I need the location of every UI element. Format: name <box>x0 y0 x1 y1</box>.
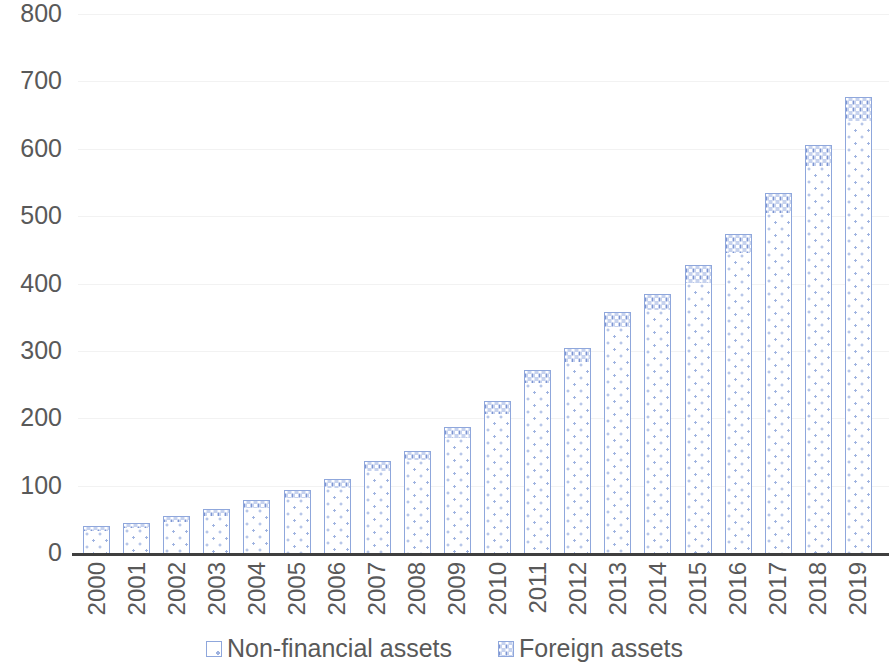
bar-group[interactable] <box>644 294 671 553</box>
bar-segment-foreign-assets[interactable] <box>243 500 270 507</box>
legend-item[interactable]: Foreign assets <box>498 636 683 661</box>
x-axis-tick-label: 2008 <box>404 562 431 632</box>
y-axis-tick-label: 0 <box>0 540 62 565</box>
y-axis-tick-label: 400 <box>0 271 62 296</box>
y-axis-tick-label: 200 <box>0 405 62 430</box>
x-axis-tick-label: 2018 <box>805 562 832 632</box>
x-axis-tick-label: 2003 <box>203 562 230 632</box>
bar-group[interactable] <box>163 516 190 553</box>
legend-label: Non-financial assets <box>227 636 452 661</box>
bar-segment-non-financial-assets[interactable] <box>484 414 511 553</box>
gridline <box>78 14 889 15</box>
bar-group[interactable] <box>324 479 351 553</box>
bar-group[interactable] <box>765 193 792 553</box>
bar-segment-non-financial-assets[interactable] <box>203 516 230 553</box>
x-axis-tick-label: 2007 <box>364 562 391 632</box>
bar-segment-non-financial-assets[interactable] <box>685 283 712 553</box>
bar-segment-non-financial-assets[interactable] <box>524 383 551 553</box>
bar-group[interactable] <box>685 265 712 553</box>
bar-segment-non-financial-assets[interactable] <box>725 253 752 553</box>
legend-swatch-foreign-icon <box>498 641 514 657</box>
bar-segment-foreign-assets[interactable] <box>284 490 311 498</box>
bar-group[interactable] <box>444 427 471 553</box>
x-axis-tick-label: 2011 <box>524 562 551 632</box>
bar-group[interactable] <box>484 401 511 553</box>
bar-segment-non-financial-assets[interactable] <box>404 460 431 553</box>
bar-segment-non-financial-assets[interactable] <box>243 508 270 553</box>
bar-segment-non-financial-assets[interactable] <box>845 121 872 553</box>
x-axis-tick-label: 2014 <box>644 562 671 632</box>
y-axis-tick-label: 700 <box>0 68 62 93</box>
bar-segment-non-financial-assets[interactable] <box>444 438 471 553</box>
chart-legend: Non-financial assetsForeign assets <box>0 636 889 661</box>
legend-swatch-nonfin-icon <box>206 641 222 657</box>
legend-label: Foreign assets <box>519 636 683 661</box>
bar-group[interactable] <box>243 500 270 553</box>
bar-group[interactable] <box>284 490 311 553</box>
x-axis-tick-label: 2005 <box>284 562 311 632</box>
x-axis-tick-label: 2017 <box>765 562 792 632</box>
bar-segment-foreign-assets[interactable] <box>444 427 471 438</box>
x-axis-tick-label: 2010 <box>484 562 511 632</box>
plot-area: 0100200300400500600700800 20002001200220… <box>0 0 889 560</box>
x-axis-tick-label: 2015 <box>685 562 712 632</box>
legend-item[interactable]: Non-financial assets <box>206 636 452 661</box>
x-axis-tick-label: 2002 <box>163 562 190 632</box>
bar-group[interactable] <box>123 523 150 553</box>
bar-segment-foreign-assets[interactable] <box>725 234 752 253</box>
bar-segment-foreign-assets[interactable] <box>364 461 391 471</box>
bar-segment-non-financial-assets[interactable] <box>324 488 351 553</box>
bar-segment-foreign-assets[interactable] <box>845 97 872 121</box>
bar-segment-non-financial-assets[interactable] <box>364 471 391 553</box>
bar-segment-non-financial-assets[interactable] <box>564 362 591 553</box>
bar-group[interactable] <box>524 370 551 553</box>
bar-group[interactable] <box>805 145 832 553</box>
bar-segment-foreign-assets[interactable] <box>484 401 511 413</box>
bar-group[interactable] <box>364 461 391 553</box>
gridline <box>78 81 889 82</box>
bar-group[interactable] <box>845 97 872 553</box>
bar-segment-foreign-assets[interactable] <box>203 509 230 516</box>
bar-segment-foreign-assets[interactable] <box>324 479 351 488</box>
bar-segment-non-financial-assets[interactable] <box>284 498 311 553</box>
x-axis-tick-label: 2009 <box>444 562 471 632</box>
bar-segment-non-financial-assets[interactable] <box>644 310 671 553</box>
bar-segment-non-financial-assets[interactable] <box>805 166 832 553</box>
x-axis-tick-label: 2019 <box>845 562 872 632</box>
y-axis-tick-label: 800 <box>0 1 62 26</box>
bar-segment-non-financial-assets[interactable] <box>123 528 150 553</box>
bar-segment-foreign-assets[interactable] <box>765 193 792 213</box>
bar-group[interactable] <box>604 312 631 553</box>
bar-segment-foreign-assets[interactable] <box>524 370 551 383</box>
bar-group[interactable] <box>564 348 591 553</box>
bar-group[interactable] <box>203 509 230 553</box>
x-axis-tick-label: 2000 <box>83 562 110 632</box>
bar-segment-foreign-assets[interactable] <box>564 348 591 362</box>
bar-segment-foreign-assets[interactable] <box>685 265 712 283</box>
bar-group[interactable] <box>83 526 110 553</box>
bar-segment-foreign-assets[interactable] <box>805 145 832 167</box>
bar-segment-non-financial-assets[interactable] <box>765 213 792 553</box>
x-axis-line <box>72 553 889 556</box>
bar-group[interactable] <box>404 451 431 553</box>
x-axis-tick-label: 2016 <box>725 562 752 632</box>
bar-segment-non-financial-assets[interactable] <box>83 531 110 553</box>
y-axis-tick-label: 500 <box>0 203 62 228</box>
bar-group[interactable] <box>725 234 752 553</box>
gridline <box>78 149 889 150</box>
x-axis-tick-label: 2006 <box>324 562 351 632</box>
x-axis-tick-label: 2012 <box>564 562 591 632</box>
bar-segment-foreign-assets[interactable] <box>604 312 631 327</box>
y-axis-tick-label: 300 <box>0 338 62 363</box>
y-axis-tick-label: 100 <box>0 473 62 498</box>
bar-segment-non-financial-assets[interactable] <box>604 327 631 553</box>
bar-segment-foreign-assets[interactable] <box>404 451 431 460</box>
x-axis-tick-label: 2001 <box>123 562 150 632</box>
stacked-bar-chart: 0100200300400500600700800 20002001200220… <box>0 0 889 668</box>
x-axis-tick-label: 2013 <box>604 562 631 632</box>
x-axis-tick-label: 2004 <box>243 562 270 632</box>
bar-segment-foreign-assets[interactable] <box>644 294 671 310</box>
bar-segment-non-financial-assets[interactable] <box>163 522 190 553</box>
y-axis-tick-label: 600 <box>0 136 62 161</box>
